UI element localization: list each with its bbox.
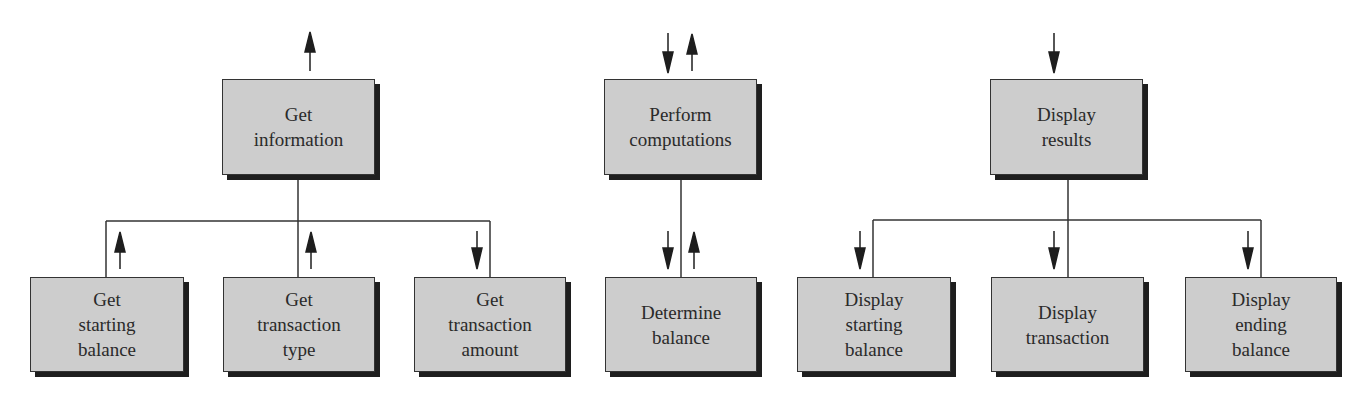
module-label: transaction <box>448 312 531 337</box>
module-label: ending <box>1231 312 1290 337</box>
module-label: Display <box>1231 287 1290 312</box>
module-get-transaction-amount: Gettransactionamount <box>414 277 566 372</box>
module-label: transaction <box>1026 325 1109 350</box>
module-label: results <box>1037 127 1096 152</box>
structure-chart: Getinformation Performcomputations Displ… <box>0 0 1372 398</box>
module-display-transaction: Displaytransaction <box>991 277 1144 372</box>
arrow-down-icon <box>1049 33 1059 73</box>
module-label: information <box>254 127 344 152</box>
arrow-up-icon <box>305 32 315 71</box>
module-label: Display <box>1037 102 1096 127</box>
arrow-down-icon <box>663 231 673 269</box>
module-label: Get <box>78 287 136 312</box>
arrow-up-icon <box>306 232 316 269</box>
arrow-up-icon <box>689 232 699 269</box>
module-determine-balance: Determinebalance <box>605 277 757 372</box>
module-label: Display <box>1026 300 1109 325</box>
module-label: type <box>257 337 340 362</box>
arrow-down-icon <box>472 231 482 269</box>
arrow-down-icon <box>1243 231 1253 269</box>
arrow-down-icon <box>855 231 865 269</box>
module-label: balance <box>78 337 136 362</box>
module-label: Display <box>844 287 903 312</box>
module-label: Perform <box>629 102 731 127</box>
module-display-results: Displayresults <box>990 79 1143 175</box>
module-perform-computations: Performcomputations <box>604 79 757 175</box>
module-label: starting <box>844 312 903 337</box>
module-label: Determine <box>641 300 721 325</box>
module-label: balance <box>1231 337 1290 362</box>
module-get-transaction-type: Gettransactiontype <box>223 277 375 372</box>
module-label: Get <box>448 287 531 312</box>
module-label: transaction <box>257 312 340 337</box>
module-label: Get <box>254 102 344 127</box>
arrow-down-icon <box>1049 231 1059 269</box>
module-label: Get <box>257 287 340 312</box>
module-label: balance <box>844 337 903 362</box>
module-label: computations <box>629 127 731 152</box>
module-get-starting-balance: Getstartingbalance <box>30 277 184 372</box>
arrow-up-icon <box>687 34 697 71</box>
arrow-down-icon <box>663 33 673 73</box>
module-display-starting-balance: Displaystartingbalance <box>797 277 951 372</box>
module-label: starting <box>78 312 136 337</box>
module-display-ending-balance: Displayendingbalance <box>1185 277 1337 372</box>
module-label: balance <box>641 325 721 350</box>
arrow-up-icon <box>115 232 125 269</box>
module-label: amount <box>448 337 531 362</box>
module-get-information: Getinformation <box>222 79 375 175</box>
